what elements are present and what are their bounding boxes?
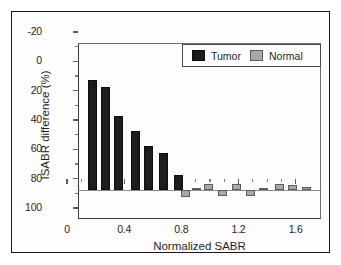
bar-normal (204, 184, 213, 190)
bar-tumor (174, 175, 183, 190)
bar-normal (232, 184, 241, 190)
x-tick-label: 0.8 (161, 223, 201, 235)
bar-normal (218, 190, 227, 196)
y-tick-label: -20 (2, 25, 42, 37)
legend-label-normal: Normal (269, 50, 303, 62)
x-tick-label: 1.2 (219, 223, 259, 235)
bar-tumor (144, 146, 153, 190)
y-axis-title: ISABR difference (%) (39, 45, 51, 205)
legend-swatch-tumor (192, 50, 205, 61)
bar-tumor (131, 131, 140, 190)
x-axis-title: Normalized SABR (78, 240, 321, 252)
bar-normal (275, 184, 284, 190)
chart-legend: Tumor Normal (182, 44, 321, 67)
bar-tumor (101, 87, 110, 190)
bar-normal (192, 188, 201, 190)
bar-normal (288, 185, 297, 189)
bar-tumor (114, 116, 123, 189)
bar-tumor (159, 153, 168, 190)
bar-normal (181, 190, 190, 197)
y-tick-label: 40 (2, 113, 42, 125)
y-tick-label: 20 (2, 84, 42, 96)
y-tick-label: 100 (2, 201, 42, 213)
y-tick-label: 0 (2, 54, 42, 66)
legend-swatch-normal (250, 50, 263, 61)
figure-frame: 100806040200-20 00.40.81.21.6 Normalized… (11, 11, 330, 253)
legend-item-tumor: Tumor (192, 50, 241, 62)
bar-normal (302, 187, 311, 190)
y-tick-label: 60 (2, 142, 42, 154)
x-tick-label: 1.6 (276, 223, 316, 235)
x-tick-label: 0 (47, 223, 87, 235)
x-tick-label: 0.4 (104, 223, 144, 235)
bar-series-layer (78, 43, 321, 219)
y-tick-label: 80 (2, 172, 42, 184)
bar-tumor (88, 80, 97, 190)
legend-item-normal: Normal (250, 50, 303, 62)
y-tick (73, 31, 78, 32)
bar-normal (259, 188, 268, 190)
x-tick (66, 179, 67, 184)
figure-container: 100806040200-20 00.40.81.21.6 Normalized… (0, 0, 341, 265)
legend-label-tumor: Tumor (211, 50, 241, 62)
bar-normal (246, 190, 255, 196)
